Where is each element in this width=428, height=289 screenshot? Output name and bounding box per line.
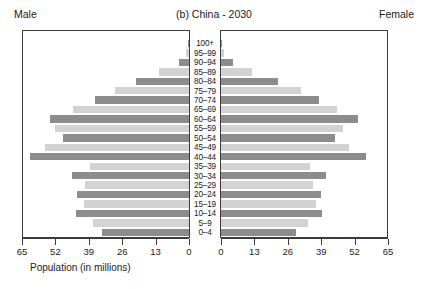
female-bar-row: [221, 162, 387, 171]
male-bar-row: [23, 95, 189, 104]
age-group-label: 100+: [190, 40, 220, 49]
population-pyramid-figure: Male (b) China - 2030 Female 0–45–910–14…: [0, 0, 428, 289]
axis-tick: [254, 239, 255, 245]
female-bar: [221, 200, 316, 207]
female-bar: [221, 40, 222, 47]
female-bar: [221, 96, 319, 103]
male-bar-row: [23, 48, 189, 57]
female-bar: [221, 163, 310, 170]
female-bar-row: [221, 171, 387, 180]
female-bar-row: [221, 39, 387, 48]
female-bar-row: [221, 199, 387, 208]
male-bar: [84, 200, 189, 207]
axis-tick-label: 65: [17, 246, 28, 257]
female-bar-row: [221, 180, 387, 189]
male-bar: [93, 219, 189, 226]
age-group-label: 0–4: [190, 229, 220, 238]
female-bar: [221, 144, 349, 151]
female-bar-row: [221, 95, 387, 104]
female-bar: [221, 78, 278, 85]
axis-tick: [89, 239, 90, 245]
axis-tick-label: 52: [50, 246, 61, 257]
female-bar-row: [221, 114, 387, 123]
male-bar: [85, 181, 189, 188]
female-side-label: Female: [379, 8, 414, 20]
male-bar-row: [23, 180, 189, 189]
male-bar-row: [23, 86, 189, 95]
male-bar-row: [23, 143, 189, 152]
female-bar-row: [221, 105, 387, 114]
age-group-label: 75–79: [190, 87, 220, 96]
female-bar-row: [221, 190, 387, 199]
age-group-label: 65–69: [190, 106, 220, 115]
age-group-label: 30–34: [190, 172, 220, 181]
male-plot-panel: [22, 30, 189, 238]
axis-tick-label: 65: [383, 246, 394, 257]
female-bar-row: [221, 67, 387, 76]
female-bar: [221, 210, 322, 217]
female-bar-row: [221, 143, 387, 152]
female-bar-row: [221, 86, 387, 95]
male-bar-row: [23, 39, 189, 48]
male-x-axis: 65523926130: [22, 238, 189, 245]
age-group-label: 95–99: [190, 49, 220, 58]
male-bar: [102, 229, 189, 236]
male-bar: [136, 78, 189, 85]
male-bar-row: [23, 114, 189, 123]
age-group-label: 55–59: [190, 125, 220, 134]
age-group-label: 25–29: [190, 181, 220, 190]
female-bar-row: [221, 228, 387, 237]
female-bar-row: [221, 133, 387, 142]
chart-title: (b) China - 2030: [0, 8, 428, 20]
male-bar-row: [23, 152, 189, 161]
male-bar: [179, 59, 189, 66]
female-bar-rows: [221, 31, 387, 237]
female-bar: [221, 106, 337, 113]
female-bar: [221, 115, 358, 122]
axis-tick: [221, 239, 222, 245]
female-bar: [221, 134, 335, 141]
male-bar-row: [23, 105, 189, 114]
axis-tick-label: 0: [186, 246, 191, 257]
axis-tick: [388, 239, 389, 245]
male-bar-row: [23, 133, 189, 142]
male-bar-row: [23, 67, 189, 76]
female-bar: [221, 153, 366, 160]
axis-tick: [122, 239, 123, 245]
age-group-label: 40–44: [190, 153, 220, 162]
axis-tick-label: 13: [150, 246, 161, 257]
male-bar: [73, 106, 189, 113]
female-bar: [221, 49, 224, 56]
female-bar: [221, 229, 296, 236]
axis-tick-label: 39: [84, 246, 95, 257]
axis-tick: [55, 239, 56, 245]
axis-tick-label: 26: [117, 246, 128, 257]
male-bar-row: [23, 190, 189, 199]
axis-tick: [189, 239, 190, 245]
male-bar-row: [23, 199, 189, 208]
axis-tick: [22, 239, 23, 245]
male-bar-row: [23, 77, 189, 86]
age-group-label: 70–74: [190, 96, 220, 105]
male-bar: [115, 87, 190, 94]
male-bar: [90, 163, 189, 170]
female-bar-row: [221, 209, 387, 218]
male-bar-rows: [23, 31, 189, 237]
female-bar: [221, 125, 343, 132]
female-bar: [221, 191, 321, 198]
male-bar: [30, 153, 189, 160]
male-bar: [72, 172, 189, 179]
female-bar: [221, 181, 313, 188]
female-bar-row: [221, 124, 387, 133]
axis-tick: [156, 239, 157, 245]
male-bar: [50, 115, 189, 122]
male-bar: [45, 144, 189, 151]
female-bar: [221, 59, 233, 66]
female-bar-row: [221, 77, 387, 86]
axis-tick: [355, 239, 356, 245]
age-group-label: 35–39: [190, 163, 220, 172]
age-group-label: 20–24: [190, 191, 220, 200]
male-bar-row: [23, 58, 189, 67]
female-bar: [221, 68, 252, 75]
female-bar-row: [221, 48, 387, 57]
